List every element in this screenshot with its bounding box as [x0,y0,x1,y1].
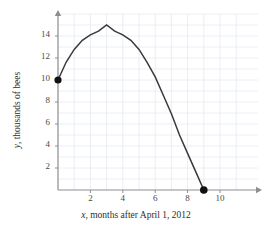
y-tick-label-6: 6 [28,117,50,127]
x-axis-title: x, months after April 1, 2012 [0,210,272,220]
data-point-end [200,186,208,194]
y-tick-label-10: 10 [28,73,50,83]
x-tick-label-4: 4 [113,193,133,203]
y-tick-label-4: 4 [28,139,50,149]
data-point-start [54,76,61,83]
y-axis [55,10,61,190]
y-axis-title-text: , thousands of bees [12,72,22,144]
bee-population-chart: 14 12 10 8 6 4 2 2 4 6 8 10 x, months af… [0,0,272,239]
x-tick-label-10: 10 [210,193,230,203]
y-axis-title: y, thousands of bees [12,35,22,185]
y-axis-title-variable: y [12,144,22,148]
bee-population-curve [58,25,204,190]
y-tick-label-8: 8 [28,95,50,105]
x-axis-title-text: , months after April 1, 2012 [85,210,190,220]
y-tick-label-12: 12 [28,51,50,61]
y-tick-label-14: 14 [28,29,50,39]
gridlines-horizontal [58,14,258,179]
x-tick-label-6: 6 [145,193,165,203]
x-tick-label-2: 2 [80,193,100,203]
y-tick-label-2: 2 [28,161,50,171]
x-tick-label-8: 8 [178,193,198,203]
